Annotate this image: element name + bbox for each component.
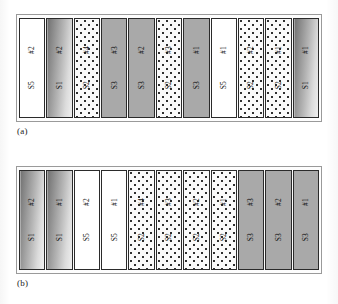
- bar-job-label: #4: [83, 46, 91, 54]
- bar-label-group: #1S2: [266, 19, 290, 117]
- bar-a-6: #3S2: [156, 18, 182, 118]
- bar-stage-label: S2: [83, 81, 91, 89]
- figure-container: #2S5#2S1#4S2#3S3#2S3#3S2#1S3#1S5#2S2#1S2…: [0, 0, 338, 304]
- bar-b-11: #1S3: [293, 170, 319, 270]
- bar-stage-label: S3: [138, 81, 146, 89]
- bar-a-1: #2S5: [19, 18, 45, 118]
- bar-label-group: #2S1: [47, 19, 71, 117]
- bar-stage-label: S3: [275, 233, 283, 241]
- panel-frame-a: #2S5#2S1#4S2#3S3#2S3#3S2#1S3#1S5#2S2#1S2…: [16, 14, 322, 122]
- bar-a-4: #3S3: [101, 18, 127, 118]
- bar-a-11: #1S1: [293, 18, 319, 118]
- bar-stage-label: S5: [28, 81, 36, 89]
- bar-label-group: #3S2: [157, 19, 181, 117]
- bar-a-2: #2S1: [46, 18, 72, 118]
- bar-b-5: #4S2: [128, 170, 154, 270]
- bar-label-group: #1S3: [184, 19, 208, 117]
- bar-stage-label: S3: [111, 81, 119, 89]
- bar-job-label: #3: [247, 198, 255, 206]
- bar-row-a: #2S5#2S1#4S2#3S3#2S3#3S2#1S3#1S5#2S2#1S2…: [19, 18, 319, 118]
- bar-job-label: #3: [111, 46, 119, 54]
- bar-a-5: #2S3: [128, 18, 154, 118]
- bar-job-label: #2: [247, 46, 255, 54]
- bar-job-label: #2: [275, 198, 283, 206]
- bar-b-3: #2S5: [74, 170, 100, 270]
- bar-job-label: #1: [193, 46, 201, 54]
- panel-frame-b: #2S1#1S1#2S5#1S5#4S2#3S2#2S2#1S2#3S3#2S3…: [16, 166, 322, 274]
- bar-a-9: #2S2: [238, 18, 264, 118]
- bar-label-group: #1S1: [294, 19, 318, 117]
- bar-job-label: #2: [28, 198, 36, 206]
- bar-b-2: #1S1: [46, 170, 72, 270]
- bar-label-group: #4S2: [129, 171, 153, 269]
- bar-stage-label: S2: [165, 81, 173, 89]
- bar-stage-label: S2: [247, 81, 255, 89]
- bar-label-group: #2S5: [20, 19, 44, 117]
- bar-job-label: #3: [165, 46, 173, 54]
- bar-b-4: #1S5: [101, 170, 127, 270]
- bar-job-label: #1: [302, 198, 310, 206]
- caption-a: (a): [17, 126, 28, 136]
- bar-job-label: #1: [220, 198, 228, 206]
- bar-label-group: #4S2: [75, 19, 99, 117]
- bar-stage-label: S3: [247, 233, 255, 241]
- bar-row-b: #2S1#1S1#2S5#1S5#4S2#3S2#2S2#1S2#3S3#2S3…: [19, 170, 319, 270]
- bar-label-group: #1S1: [47, 171, 71, 269]
- bar-b-10: #2S3: [265, 170, 291, 270]
- bar-stage-label: S1: [28, 233, 36, 241]
- bar-a-10: #1S2: [265, 18, 291, 118]
- bar-job-label: #2: [28, 46, 36, 54]
- bar-stage-label: S5: [83, 233, 91, 241]
- bar-stage-label: S5: [111, 233, 119, 241]
- bar-stage-label: S2: [165, 233, 173, 241]
- bar-stage-label: S2: [193, 233, 201, 241]
- bar-label-group: #2S2: [239, 19, 263, 117]
- bar-stage-label: S3: [193, 81, 201, 89]
- bar-job-label: #2: [138, 46, 146, 54]
- bar-stage-label: S2: [220, 233, 228, 241]
- bar-stage-label: S2: [138, 233, 146, 241]
- bar-label-group: #3S3: [239, 171, 263, 269]
- bar-label-group: #2S1: [20, 171, 44, 269]
- bar-label-group: #1S5: [212, 19, 236, 117]
- bar-job-label: #3: [165, 198, 173, 206]
- subfigure-b: #2S1#1S1#2S5#1S5#4S2#3S2#2S2#1S2#3S3#2S3…: [0, 152, 338, 304]
- bar-label-group: #3S2: [157, 171, 181, 269]
- bar-job-label: #1: [220, 46, 228, 54]
- bar-label-group: #2S3: [266, 171, 290, 269]
- bar-stage-label: S1: [56, 81, 64, 89]
- bar-a-8: #1S5: [211, 18, 237, 118]
- bar-job-label: #2: [83, 198, 91, 206]
- bar-label-group: #1S3: [294, 171, 318, 269]
- bar-label-group: #1S2: [212, 171, 236, 269]
- bar-b-9: #3S3: [238, 170, 264, 270]
- bar-a-3: #4S2: [74, 18, 100, 118]
- subfigure-a: #2S5#2S1#4S2#3S3#2S3#3S2#1S3#1S5#2S2#1S2…: [0, 0, 338, 152]
- bar-b-8: #1S2: [211, 170, 237, 270]
- bar-label-group: #3S3: [102, 19, 126, 117]
- bar-stage-label: S5: [220, 81, 228, 89]
- bar-job-label: #1: [302, 46, 310, 54]
- bar-b-6: #3S2: [156, 170, 182, 270]
- bar-stage-label: S3: [302, 233, 310, 241]
- bar-job-label: #2: [193, 198, 201, 206]
- bar-job-label: #4: [138, 198, 146, 206]
- bar-a-7: #1S3: [183, 18, 209, 118]
- bar-job-label: #1: [275, 46, 283, 54]
- bar-label-group: #2S3: [129, 19, 153, 117]
- bar-stage-label: S1: [302, 81, 310, 89]
- bar-b-7: #2S2: [183, 170, 209, 270]
- bar-job-label: #2: [56, 46, 64, 54]
- bar-label-group: #2S5: [75, 171, 99, 269]
- bar-b-1: #2S1: [19, 170, 45, 270]
- caption-b: (b): [17, 278, 28, 288]
- bar-stage-label: S2: [275, 81, 283, 89]
- bar-stage-label: S1: [56, 233, 64, 241]
- bar-job-label: #1: [111, 198, 119, 206]
- bar-job-label: #1: [56, 198, 64, 206]
- bar-label-group: #1S5: [102, 171, 126, 269]
- bar-label-group: #2S2: [184, 171, 208, 269]
